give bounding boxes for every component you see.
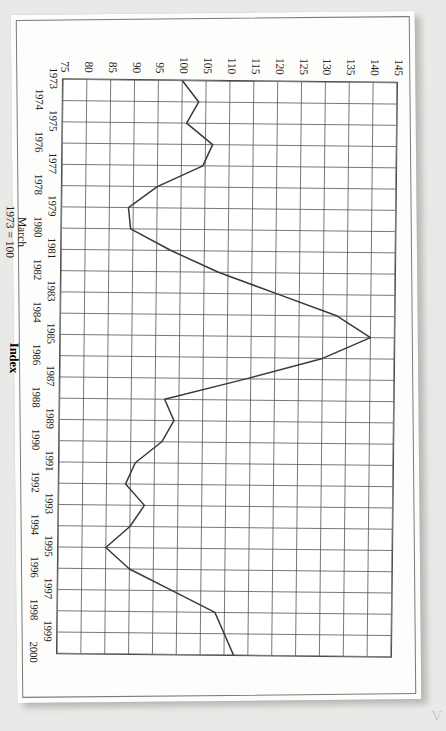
scanned-page-canvas: 1451401351301251201151101051009590858075… bbox=[0, 0, 446, 731]
grid-line-horizontal bbox=[391, 82, 397, 656]
x-tick-label: 1982 bbox=[32, 252, 44, 286]
grid-line-horizontal bbox=[248, 81, 254, 655]
y-tick-label: 105 bbox=[202, 45, 214, 73]
x-tick-label: 1993 bbox=[43, 486, 55, 520]
y-tick-label: 95 bbox=[154, 45, 166, 73]
plot-area bbox=[56, 78, 398, 657]
x-tick-label: 1975 bbox=[47, 103, 59, 137]
x-tick-label: 1997 bbox=[42, 571, 54, 605]
x-tick-label: 1992 bbox=[30, 464, 42, 498]
y-tick-label: 135 bbox=[345, 47, 357, 75]
y-tick-label: 90 bbox=[131, 45, 143, 73]
x-tick-label: 1979 bbox=[46, 188, 58, 222]
x-tick-label: 1985 bbox=[45, 316, 57, 350]
x-tick-label: 1981 bbox=[46, 231, 58, 265]
y-tick-label: 140 bbox=[369, 47, 381, 75]
x-tick-label: 1977 bbox=[47, 146, 59, 180]
x-tick-label: 1995 bbox=[43, 528, 55, 562]
grid-line-horizontal bbox=[224, 81, 230, 655]
grid-line-horizontal bbox=[105, 79, 111, 653]
x-tick-label: 1978 bbox=[33, 167, 45, 201]
grid-line-horizontal bbox=[343, 82, 349, 656]
grid-line-horizontal bbox=[272, 81, 278, 655]
x-tick-label: 1974 bbox=[34, 82, 46, 116]
grid-line-horizontal bbox=[319, 82, 325, 656]
grid-line-horizontal bbox=[200, 80, 206, 654]
y-tick-label: 130 bbox=[321, 47, 333, 75]
x-tick-label: 2000 bbox=[28, 634, 40, 668]
x-tick-label: 1980 bbox=[32, 209, 44, 243]
base-period-note: March 1973 = 100 bbox=[4, 200, 29, 262]
y-tick-label: 125 bbox=[298, 46, 310, 74]
page-corner-mark: V bbox=[431, 708, 442, 725]
y-axis-title: Index bbox=[6, 342, 21, 373]
x-tick-label: 1996 bbox=[29, 549, 41, 583]
x-tick-label: 1999 bbox=[42, 613, 54, 647]
grid-line-horizontal bbox=[176, 80, 182, 654]
grid-lines bbox=[57, 79, 397, 656]
x-tick-label: 1994 bbox=[29, 507, 41, 541]
x-tick-label: 1986 bbox=[31, 337, 43, 371]
y-tick-label: 120 bbox=[274, 46, 286, 74]
grid-line-horizontal bbox=[81, 79, 87, 653]
chart-figure: 1451401351301251201151101051009590858075… bbox=[40, 44, 407, 688]
grid-line-horizontal bbox=[152, 80, 158, 654]
y-tick-label: 145 bbox=[393, 47, 405, 75]
chart-figure-inner: 1451401351301251201151101051009590858075… bbox=[40, 44, 407, 688]
x-tick-label: 1989 bbox=[44, 401, 56, 435]
y-tick-label: 115 bbox=[250, 46, 262, 74]
x-tick-label: 1984 bbox=[31, 294, 43, 328]
x-tick-label: 1983 bbox=[46, 273, 58, 307]
y-tick-label: 110 bbox=[226, 46, 238, 74]
grid-line-horizontal bbox=[296, 81, 302, 655]
x-tick-label: 1991 bbox=[44, 443, 56, 477]
x-tick-label: 1976 bbox=[33, 124, 45, 158]
y-tick-label: 85 bbox=[107, 44, 119, 72]
x-tick-label: 1988 bbox=[30, 379, 42, 413]
x-tick-label: 1990 bbox=[30, 422, 42, 456]
x-tick-label: 1973 bbox=[48, 61, 60, 95]
y-tick-label: 80 bbox=[83, 44, 95, 72]
x-tick-label: 1987 bbox=[45, 358, 57, 392]
grid-line-horizontal bbox=[129, 80, 135, 654]
y-tick-label: 100 bbox=[178, 45, 190, 73]
y-tick-label: 75 bbox=[59, 44, 71, 72]
x-tick-label: 1998 bbox=[28, 592, 40, 626]
grid-line-horizontal bbox=[367, 82, 373, 656]
